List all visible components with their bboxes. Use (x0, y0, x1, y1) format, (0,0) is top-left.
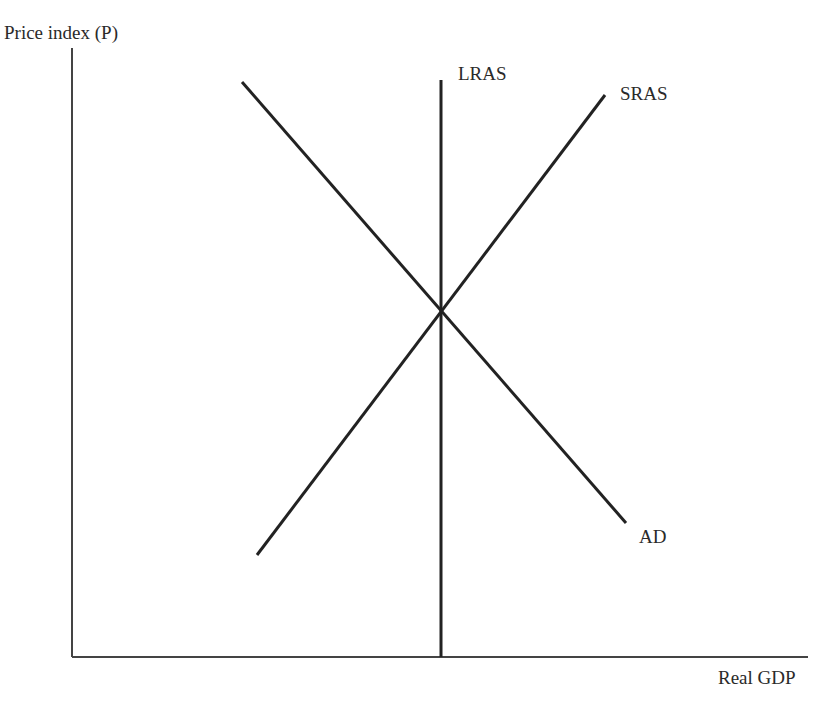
ad-as-diagram (0, 0, 840, 712)
ad-label: AD (639, 527, 666, 546)
x-axis-label: Real GDP (718, 668, 796, 687)
sras-curve (257, 95, 605, 555)
lras-label: LRAS (458, 64, 507, 83)
ad-curve (242, 82, 626, 523)
sras-label: SRAS (620, 84, 668, 103)
y-axis-label: Price index (P) (4, 23, 118, 42)
